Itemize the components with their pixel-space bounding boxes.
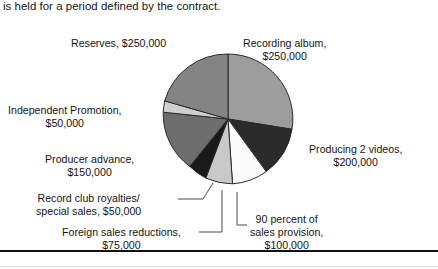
label-sales-provision: 90 percent of sales provision, $100,000 <box>250 213 323 253</box>
label-reserves: Reserves, $250,000 <box>71 37 166 50</box>
label-record-club: Record club royalties/ special sales, $5… <box>36 192 141 218</box>
label-independent-promotion: Independent Promotion, $50,000 <box>8 104 122 130</box>
label-independent-promotion-line1: Independent Promotion, <box>8 104 122 116</box>
label-independent-promotion-line2: $50,000 <box>8 117 122 130</box>
label-sales-provision-line1: 90 percent of <box>256 213 318 225</box>
label-producing-videos-line2: $200,000 <box>309 156 402 169</box>
page-rule-thick <box>0 250 438 252</box>
label-recording-album-line2: $250,000 <box>243 50 326 63</box>
label-record-club-line1: Record club royalties/ <box>37 192 139 204</box>
pie-chart-figure: Reserves, $250,000 Recording album, $250… <box>0 20 438 248</box>
leader-line-foreign-sales <box>199 190 222 232</box>
leader-line-sales-provision <box>237 192 247 225</box>
label-recording-album: Recording album, $250,000 <box>243 37 326 63</box>
label-reserves-line1: Reserves, $250,000 <box>71 37 166 49</box>
label-producing-videos: Producing 2 videos, $200,000 <box>309 143 402 169</box>
label-producer-advance-line1: Producer advance, <box>45 153 134 165</box>
pie-slice-recording-album <box>228 54 293 129</box>
label-sales-provision-line2: sales provision, <box>250 226 323 239</box>
label-record-club-line2: special sales, $50,000 <box>36 205 141 218</box>
label-foreign-sales-line1: Foreign sales reductions, <box>62 226 181 238</box>
label-foreign-sales: Foreign sales reductions, $75,000 <box>62 226 181 252</box>
label-producing-videos-line1: Producing 2 videos, <box>309 143 402 155</box>
label-producer-advance-line2: $150,000 <box>45 166 134 179</box>
label-producer-advance: Producer advance, $150,000 <box>45 153 134 179</box>
page-rule-thin <box>0 266 438 267</box>
paragraph-text: is held for a period defined by the cont… <box>3 0 221 14</box>
leader-line-record-club <box>178 183 213 199</box>
label-recording-album-line1: Recording album, <box>243 37 326 49</box>
